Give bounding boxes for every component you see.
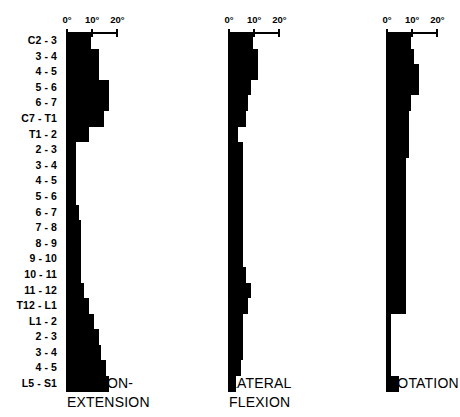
bar — [228, 189, 243, 205]
bar — [66, 142, 76, 158]
bar — [386, 251, 406, 267]
bar — [386, 283, 406, 299]
bar — [66, 205, 79, 221]
row-label: 8 - 9 — [0, 236, 62, 252]
bar — [66, 236, 81, 252]
row-label: 11 - 12 — [0, 283, 62, 299]
bar — [386, 329, 391, 345]
axis-tick-label-10: 10° — [247, 14, 261, 25]
row-label: C7 - T1 — [0, 111, 62, 127]
row-label: 4 - 5 — [0, 173, 62, 189]
bar — [386, 345, 391, 361]
bar — [66, 345, 101, 361]
row-label: 7 - 8 — [0, 220, 62, 236]
bar — [66, 251, 81, 267]
axis-tick-20 — [116, 29, 118, 37]
bar — [228, 298, 248, 314]
row-label: 5 - 6 — [0, 189, 62, 205]
bar — [228, 345, 243, 361]
bar — [66, 220, 81, 236]
panel-caption-line: LATERAL — [229, 374, 292, 393]
panel-rotation: 0° 10° 20° ROTATION — [386, 0, 460, 417]
bar — [228, 236, 243, 252]
bar — [66, 64, 99, 80]
bar — [228, 142, 243, 158]
axis-tick-label-0: 0° — [382, 14, 391, 25]
bar — [66, 314, 94, 330]
bar — [228, 95, 248, 111]
bar — [66, 95, 109, 111]
bar — [66, 158, 76, 174]
bar — [66, 329, 99, 345]
row-label: 3 - 4 — [0, 158, 62, 174]
bar — [386, 64, 419, 80]
panel-lateral-flexion: 0° 10° 20° LATERALFLEXION — [228, 0, 358, 417]
bar — [228, 283, 251, 299]
bar — [386, 127, 409, 143]
bar — [386, 173, 406, 189]
axis-tick-20 — [436, 29, 438, 37]
bar — [228, 220, 243, 236]
axis-tick-label-10: 10° — [405, 14, 419, 25]
bar — [386, 298, 406, 314]
bar — [228, 329, 243, 345]
panel-caption-line: EXTENSION — [67, 393, 150, 412]
axis-tick-labels: 0° 10° 20° — [66, 14, 136, 26]
axis-tick-label-0: 0° — [224, 14, 233, 25]
bars-rotation — [386, 33, 419, 392]
bar — [66, 33, 91, 49]
row-label: 3 - 4 — [0, 49, 62, 65]
bar — [66, 189, 76, 205]
bar — [66, 127, 89, 143]
row-label: 4 - 5 — [0, 64, 62, 80]
panel-caption-flexion-extension: FLEXION-EXTENSION — [67, 374, 150, 412]
bar — [386, 33, 411, 49]
row-label: 2 - 3 — [0, 329, 62, 345]
row-label: C2 - 3 — [0, 33, 62, 49]
bar — [386, 95, 411, 111]
row-label-column: C2 - 33 - 44 - 55 - 66 - 7C7 - T1T1 - 22… — [0, 33, 62, 392]
row-label: 9 - 10 — [0, 251, 62, 267]
bar — [386, 158, 406, 174]
bar — [66, 111, 104, 127]
row-label: 5 - 6 — [0, 80, 62, 96]
bar — [66, 283, 84, 299]
row-label: 10 - 11 — [0, 267, 62, 283]
bar — [386, 205, 406, 221]
bar — [386, 189, 406, 205]
bar — [386, 236, 406, 252]
bar — [228, 314, 243, 330]
bar — [66, 298, 89, 314]
bar — [386, 142, 409, 158]
bar — [66, 80, 109, 96]
bar — [66, 173, 76, 189]
bar — [228, 173, 243, 189]
bars-lateral-flexion — [228, 33, 258, 392]
row-label: 2 - 3 — [0, 142, 62, 158]
bar — [228, 111, 246, 127]
bar — [386, 111, 409, 127]
row-label: T1 - 2 — [0, 127, 62, 143]
bar — [228, 33, 253, 49]
bar — [228, 205, 243, 221]
axis-tick-label-20: 20° — [110, 14, 124, 25]
bar — [228, 127, 238, 143]
axis-tick-label-20: 20° — [272, 14, 286, 25]
axis-tick-label-10: 10° — [85, 14, 99, 25]
panel-caption-lateral-flexion: LATERALFLEXION — [229, 374, 292, 412]
bar — [386, 80, 419, 96]
bar — [228, 80, 251, 96]
spinal-range-of-motion-figure: C2 - 33 - 44 - 55 - 66 - 7C7 - T1T1 - 22… — [0, 0, 460, 417]
bar — [228, 158, 243, 174]
row-label: 6 - 7 — [0, 205, 62, 221]
axis-tick-label-20: 20° — [430, 14, 444, 25]
bar — [386, 314, 391, 330]
axis-tick-20 — [278, 29, 280, 37]
panel-caption-line: FLEXION — [229, 393, 292, 412]
row-label: L1 - 2 — [0, 314, 62, 330]
row-label: 3 - 4 — [0, 345, 62, 361]
bar — [228, 251, 243, 267]
panel-caption-line: ROTATION — [387, 374, 459, 393]
row-label: 4 - 5 — [0, 360, 62, 376]
axis-tick-labels: 0° 10° 20° — [228, 14, 298, 26]
